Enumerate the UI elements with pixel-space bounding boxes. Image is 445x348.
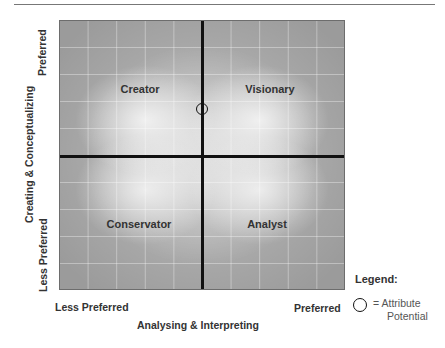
top-divider [14, 4, 435, 5]
y-axis-high-label: Preferred [36, 29, 48, 76]
x-axis-high-label: Preferred [294, 302, 341, 314]
legend-entry-line1: = Attribute [373, 297, 421, 309]
attribute-potential-circle-icon [196, 103, 208, 115]
y-axis-low-label: Less Preferred [37, 218, 49, 292]
x-axis-low-label: Less Preferred [55, 301, 129, 313]
circle-icon [353, 298, 367, 312]
horizontal-axis [60, 155, 344, 158]
y-axis-title: Creating & Conceptualizing [23, 86, 35, 223]
quadrant-label-conservator: Conservator [107, 218, 172, 230]
x-axis-title: Analysing & Interpreting [137, 319, 259, 331]
legend-title: Legend: [355, 273, 398, 285]
quadrant-label-visionary: Visionary [245, 83, 294, 95]
legend-entry: = Attribute Potential [373, 297, 428, 323]
legend-entry-line2: Potential [373, 310, 428, 323]
quadrant-chart: Creator Visionary Conservator Analyst [59, 20, 345, 290]
quadrant-label-analyst: Analyst [247, 218, 287, 230]
quadrant-label-creator: Creator [120, 83, 159, 95]
